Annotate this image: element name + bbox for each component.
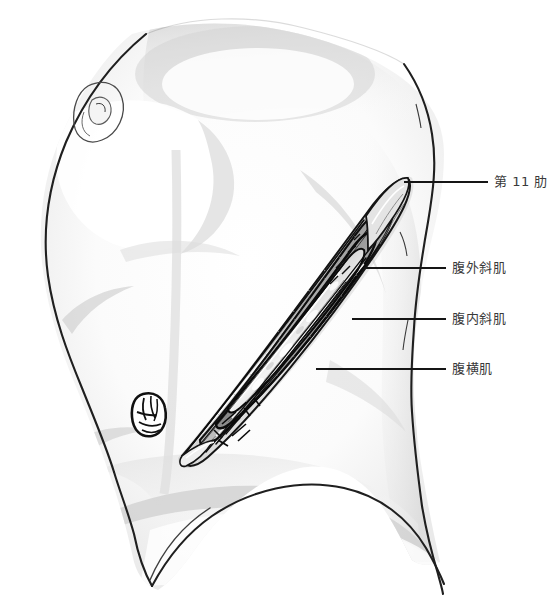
anatomical-figure <box>0 0 558 616</box>
chest-highlight-inner <box>162 48 354 120</box>
label-rib-11: 第 11 肋 <box>494 175 548 188</box>
torso-illustration <box>41 19 448 594</box>
label-internal-oblique: 腹内斜肌 <box>452 312 506 325</box>
umbilicus <box>132 393 166 436</box>
label-external-oblique: 腹外斜肌 <box>452 261 506 274</box>
label-transversus-abdominis: 腹横肌 <box>452 362 493 375</box>
